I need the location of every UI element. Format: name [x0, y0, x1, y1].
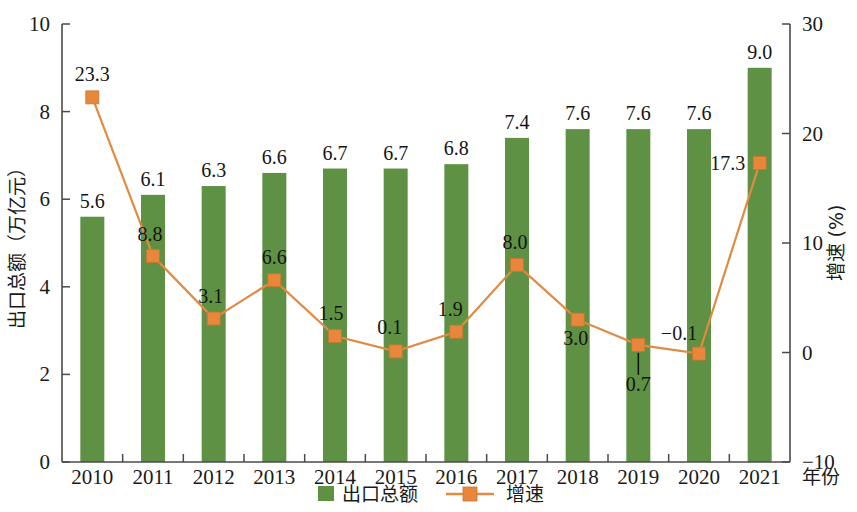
bar-value-label-2018: 7.6 [565, 102, 590, 124]
growth-value-label-2010: 23.3 [75, 63, 110, 85]
x-tick-label-2020: 2020 [678, 465, 720, 489]
right-tick-label: 20 [802, 122, 823, 146]
legend-label-growth: 增速 [506, 483, 544, 505]
right-tick-label: 0 [802, 341, 813, 365]
growth-value-label-2013: 6.6 [262, 246, 287, 268]
bar-value-label-2013: 6.6 [262, 146, 287, 168]
growth-marker-2013 [268, 274, 281, 287]
growth-value-label-2020: −0.1 [661, 322, 697, 344]
growth-marker-2019 [632, 338, 645, 351]
x-tick-label-2018: 2018 [557, 465, 599, 489]
growth-marker-2010 [86, 91, 99, 104]
growth-value-label-2015: 0.1 [377, 316, 402, 338]
legend-marker-growth [463, 487, 477, 501]
bar-2010 [80, 217, 104, 462]
bar-2018 [566, 129, 590, 462]
chart-canvas: 0246810−10010203020102011201220132014201… [0, 0, 857, 512]
bar-value-label-2017: 7.4 [505, 111, 530, 133]
left-tick-label: 8 [40, 100, 51, 124]
growth-marker-2014 [329, 330, 342, 343]
left-axis-title: 出口总额（万亿元） [6, 158, 28, 329]
growth-marker-2018 [571, 313, 584, 326]
bar-value-label-2015: 6.7 [383, 142, 408, 164]
growth-marker-2021 [753, 157, 766, 170]
x-tick-label-2010: 2010 [71, 465, 113, 489]
bar-value-label-2019: 7.6 [626, 102, 651, 124]
growth-marker-2020 [693, 347, 706, 360]
x-tick-label-2012: 2012 [193, 465, 235, 489]
bar-series-group [80, 68, 771, 462]
bar-value-label-2020: 7.6 [687, 102, 712, 124]
right-axis-title: 增速 (%) [825, 205, 847, 282]
growth-value-label-2016: 1.9 [438, 298, 463, 320]
left-tick-label: 10 [29, 12, 50, 36]
bar-value-label-2016: 6.8 [444, 137, 469, 159]
bar-value-label-2011: 6.1 [141, 168, 166, 190]
growth-value-label-2014: 1.5 [319, 302, 344, 324]
growth-rate-line [92, 97, 759, 353]
left-tick-label: 4 [40, 275, 51, 299]
right-tick-label: 10 [802, 231, 823, 255]
growth-value-label-2019: 0.7 [626, 373, 651, 395]
bar-value-label-2014: 6.7 [323, 142, 348, 164]
bar-value-label-2010: 5.6 [80, 190, 105, 212]
bar-2013 [262, 173, 286, 462]
growth-value-label-2017: 8.0 [503, 231, 528, 253]
export-total-growth-chart: 0246810−10010203020102011201220132014201… [0, 0, 857, 512]
growth-marker-2011 [147, 250, 160, 263]
growth-value-label-2012: 3.1 [198, 285, 223, 307]
legend-group: 出口总额增速 [318, 483, 544, 505]
growth-marker-2017 [511, 258, 524, 271]
growth-marker-2012 [207, 312, 220, 325]
line-series-group [86, 91, 766, 360]
left-tick-label: 6 [40, 187, 51, 211]
x-axis-title: 年份 [802, 466, 840, 488]
legend-label-export-total: 出口总额 [342, 483, 418, 505]
x-tick-label-2016: 2016 [435, 465, 477, 489]
x-tick-label-2021: 2021 [739, 465, 781, 489]
growth-value-label-2011: 8.8 [138, 223, 163, 245]
left-tick-label: 2 [40, 362, 51, 386]
legend-swatch-export-total [318, 486, 334, 501]
growth-marker-2016 [450, 325, 463, 338]
x-tick-label-2013: 2013 [253, 465, 295, 489]
bar-2021 [748, 68, 772, 462]
bar-2017 [505, 138, 529, 462]
growth-value-label-2018: 3.0 [563, 327, 588, 349]
growth-value-label-2021: 17.3 [710, 152, 745, 174]
right-tick-label: 30 [802, 12, 823, 36]
bar-value-label-2021: 9.0 [747, 41, 772, 63]
bar-value-label-2012: 6.3 [201, 159, 226, 181]
bar-2015 [384, 169, 408, 462]
growth-marker-2015 [389, 345, 402, 358]
bar-2020 [687, 129, 711, 462]
left-tick-label: 0 [40, 450, 51, 474]
bar-2019 [626, 129, 650, 462]
x-tick-label-2019: 2019 [617, 465, 659, 489]
x-tick-label-2011: 2011 [132, 465, 173, 489]
axes-group: 0246810−10010203020102011201220132014201… [6, 12, 847, 489]
